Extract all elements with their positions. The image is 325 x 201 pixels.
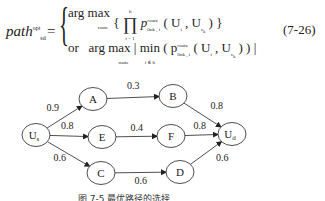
edge-weight: 0.6 xyxy=(135,175,148,186)
edge-weight: 0.9 xyxy=(47,102,60,113)
node-Ud: Ud xyxy=(218,123,246,146)
edge-C-D xyxy=(115,172,166,173)
svg-text:A: A xyxy=(89,93,97,105)
edge-weight: 0.3 xyxy=(127,80,140,91)
node-A: A xyxy=(79,88,107,111)
equation-row-1: arg max route { h ∏ i = 1 proutelink , i… xyxy=(68,5,222,43)
node-B: B xyxy=(159,85,187,108)
edge-weight: 0.6 xyxy=(216,152,229,163)
svg-text:C: C xyxy=(97,167,104,179)
node-C: C xyxy=(87,162,115,185)
svg-text:E: E xyxy=(99,131,106,143)
svg-text:D: D xyxy=(176,166,184,178)
edge-E-F xyxy=(116,136,157,137)
equation-7-26: pathoptsd = { arg max route { h ∏ i = 1 … xyxy=(0,0,325,70)
edge-F-Ud xyxy=(185,134,218,135)
node-Us: Us xyxy=(22,124,50,147)
edge-weight: 0.6 xyxy=(54,152,67,163)
path-graph: UsAECBFDUd 0.90.80.60.30.40.60.80.80.6 xyxy=(0,75,325,201)
node-E: E xyxy=(88,126,116,149)
edge-weight: 0.8 xyxy=(211,100,224,111)
edge-weight: 0.8 xyxy=(61,120,74,131)
node-D: D xyxy=(166,161,194,184)
equation-number: (7-26) xyxy=(283,22,316,38)
svg-text:F: F xyxy=(168,130,174,142)
edge-weight: 0.8 xyxy=(194,120,207,131)
equation-row-2: or arg max route | min i ∈ h ( proutelin… xyxy=(68,40,256,72)
node-F: F xyxy=(157,125,185,148)
edge-Us-E xyxy=(50,135,88,136)
svg-text:B: B xyxy=(169,90,176,102)
edge-weight: 0.4 xyxy=(131,122,144,133)
figure-caption: 图 7-5 最优路径的选择 xyxy=(78,192,170,201)
edge-A-B xyxy=(107,97,159,99)
equation-lhs: pathoptsd xyxy=(6,23,46,41)
equals-sign: = xyxy=(47,23,55,40)
